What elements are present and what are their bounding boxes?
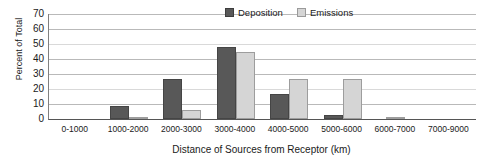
legend-swatch-deposition-icon: [225, 8, 234, 17]
bar-deposition: [110, 106, 129, 120]
y-tick-label: 70: [33, 9, 44, 19]
bar-emissions: [343, 79, 362, 120]
bar-deposition: [217, 47, 236, 119]
x-tick-label: 0-1000: [48, 124, 101, 134]
bar-deposition: [163, 79, 182, 120]
y-tick-label: 20: [33, 84, 44, 94]
legend-swatch-emissions-icon: [297, 8, 306, 17]
legend-label-deposition: Deposition: [238, 8, 283, 18]
bar-emissions: [236, 52, 255, 120]
bar-groups: [49, 14, 476, 119]
y-tick-label: 60: [33, 24, 44, 34]
plot-area: [48, 14, 476, 120]
x-tick-label: 7000-9000: [422, 124, 475, 134]
y-tick-label: 10: [33, 99, 44, 109]
legend-item-deposition: Deposition: [225, 8, 283, 18]
x-tick-label: 3000-4000: [208, 124, 261, 134]
x-axis-title: Distance of Sources from Receptor (km): [48, 144, 475, 155]
bar-chart: Deposition Emissions Percent of Total 70…: [0, 0, 484, 166]
x-tick-label: 1000-2000: [101, 124, 154, 134]
bar-group: [423, 14, 476, 119]
y-axis-tick-labels: 706050403020100: [22, 9, 44, 120]
y-tick-label: 0: [38, 114, 44, 124]
bar-group: [263, 14, 316, 119]
x-tick-label: 6000-7000: [368, 124, 421, 134]
bar-emissions: [129, 117, 148, 119]
x-tick-label: 5000-6000: [315, 124, 368, 134]
legend-item-emissions: Emissions: [297, 8, 353, 18]
y-tick-label: 30: [33, 69, 44, 79]
x-tick-label: 2000-3000: [155, 124, 208, 134]
x-tick-label: 4000-5000: [262, 124, 315, 134]
bar-group: [316, 14, 369, 119]
bar-emissions: [182, 110, 201, 119]
bar-group: [369, 14, 422, 119]
y-tick-label: 40: [33, 54, 44, 64]
bar-emissions: [386, 117, 405, 119]
bar-group: [102, 14, 155, 119]
bar-emissions: [289, 79, 308, 120]
legend-label-emissions: Emissions: [310, 8, 353, 18]
x-axis-tick-labels: 0-10001000-20002000-30003000-40004000-50…: [48, 124, 475, 134]
chart-legend: Deposition Emissions: [225, 8, 353, 18]
bar-group: [209, 14, 262, 119]
bar-deposition: [324, 115, 343, 120]
bar-deposition: [270, 94, 289, 120]
y-tick-label: 50: [33, 39, 44, 49]
bar-group: [49, 14, 102, 119]
bar-group: [156, 14, 209, 119]
